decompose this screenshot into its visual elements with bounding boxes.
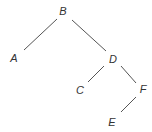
node-e: E	[108, 116, 116, 128]
edge-b-d	[72, 20, 106, 51]
edge-d-f	[121, 66, 136, 83]
node-a: A	[9, 52, 17, 64]
edge-f-e	[121, 97, 136, 112]
nodes: B A D C F E	[9, 5, 147, 128]
node-c: C	[76, 84, 84, 96]
edge-d-c	[88, 66, 104, 82]
edges	[24, 19, 136, 112]
edge-b-a	[24, 19, 57, 50]
node-b: B	[59, 5, 66, 17]
tree-diagram: B A D C F E	[0, 0, 152, 132]
node-f: F	[140, 83, 148, 95]
node-d: D	[109, 53, 117, 65]
